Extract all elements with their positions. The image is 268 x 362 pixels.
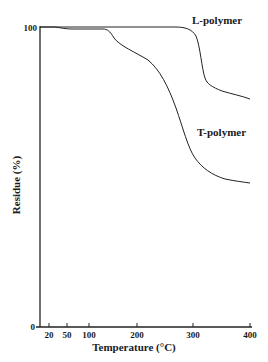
y-tick-label-top: 100	[24, 23, 38, 33]
x-tick-label: 100	[82, 330, 96, 340]
series-l-polymer-line	[40, 27, 250, 99]
series-t-polymer-line	[40, 27, 250, 183]
y-tick-label-bottom: 0	[31, 322, 36, 332]
x-tick-label: 50	[63, 330, 73, 340]
x-tick-label: 20	[45, 330, 55, 340]
y-axis-title: Residue (%)	[10, 155, 23, 214]
x-tick-label: 300	[186, 330, 200, 340]
x-tick-label: 400	[243, 330, 257, 340]
tga-chart: 20 50 100 200 300 400 100 0 Temperature …	[0, 0, 268, 362]
series-label-t-polymer: T-polymer	[197, 126, 246, 138]
x-axis-title: Temperature (°C)	[92, 341, 176, 354]
series-label-l-polymer: L-polymer	[192, 14, 242, 26]
x-tick-label: 200	[130, 330, 144, 340]
